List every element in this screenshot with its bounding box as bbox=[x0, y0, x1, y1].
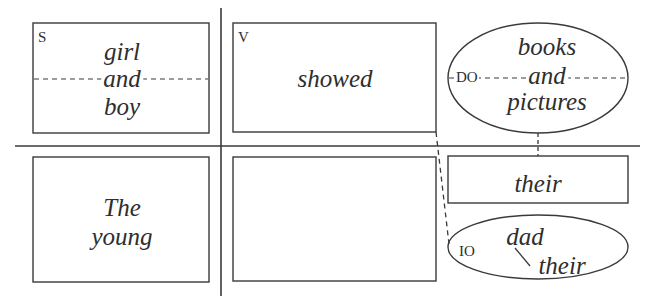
verb-label: V bbox=[238, 30, 249, 45]
subject-label: S bbox=[38, 30, 46, 45]
indirect-object-word-dad: dad bbox=[506, 224, 544, 249]
verb-modifier-box-empty bbox=[233, 157, 436, 281]
io-modifier-slant-line bbox=[515, 248, 530, 266]
indirect-object-modifier-their: their bbox=[538, 253, 585, 278]
subject-word-boy: boy bbox=[104, 94, 140, 119]
subject-modifier-young: young bbox=[91, 224, 152, 249]
direct-object-conjunction-and: and bbox=[526, 63, 568, 88]
verb-to-io-dashed-connector bbox=[436, 132, 449, 244]
subject-word-girl: girl bbox=[104, 39, 140, 64]
direct-object-modifier-their: their bbox=[514, 171, 561, 196]
verb-word-showed: showed bbox=[298, 66, 373, 91]
indirect-object-label: IO bbox=[459, 244, 475, 259]
subject-conjunction-and: and bbox=[101, 66, 143, 91]
direct-object-word-pictures: pictures bbox=[507, 89, 587, 114]
subject-modifier-the: The bbox=[103, 195, 141, 220]
direct-object-word-books: books bbox=[518, 34, 576, 59]
direct-object-label: DO bbox=[456, 70, 479, 85]
